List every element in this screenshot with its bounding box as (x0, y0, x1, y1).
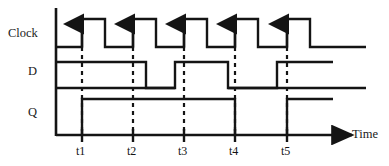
clock-edge-arrows (82, 24, 287, 47)
waveform-d (56, 62, 366, 88)
waveform-canvas (0, 0, 389, 166)
tick-label-t2: t2 (127, 144, 136, 159)
signal-label-q: Q (28, 106, 37, 119)
signal-label-d: D (28, 65, 37, 78)
tick-label-t4: t4 (229, 144, 238, 159)
time-axis-label: Time (352, 128, 378, 141)
signal-label-clock: Clock (8, 27, 38, 40)
waveform-q (82, 99, 333, 135)
tick-label-t3: t3 (178, 144, 187, 159)
time-reference-lines (82, 47, 287, 135)
waveform-clock (56, 19, 366, 47)
timing-diagram: Clock D Q Time t1 t2 t3 t4 t5 (0, 0, 389, 166)
tick-label-t5: t5 (281, 144, 290, 159)
tick-label-t1: t1 (76, 144, 85, 159)
